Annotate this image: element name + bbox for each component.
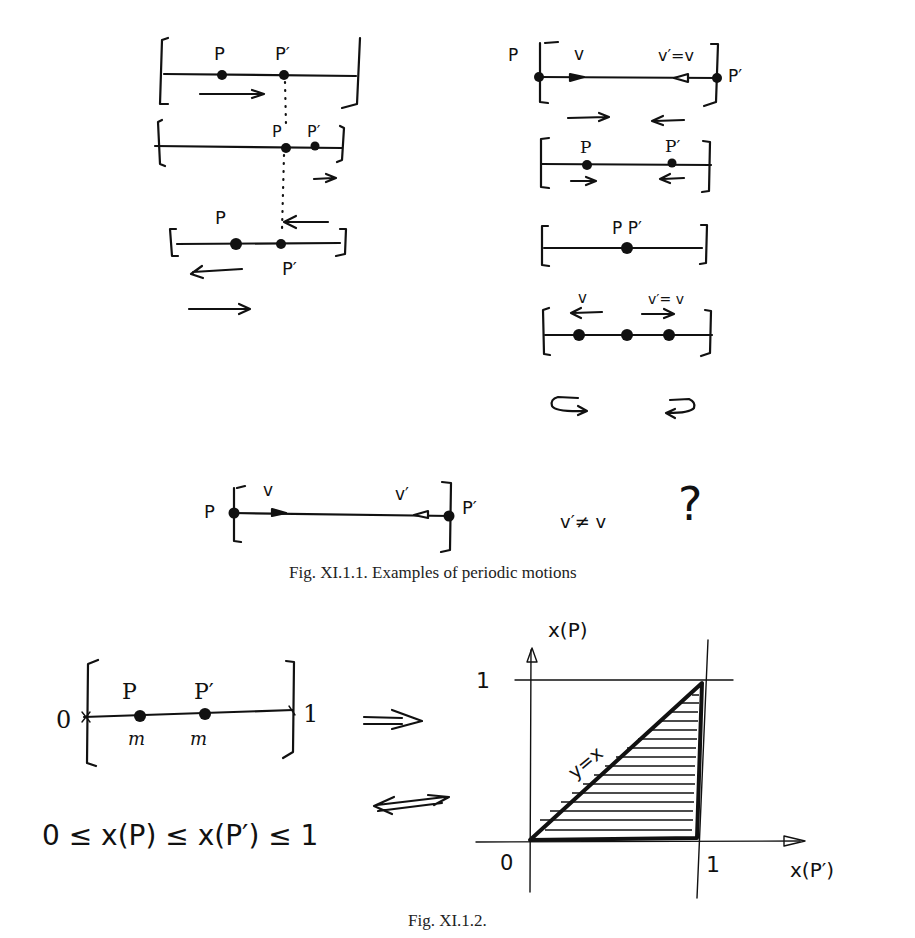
mass-label-2: m	[190, 728, 207, 749]
rotation-arrows	[552, 397, 695, 418]
x-axis-label: x(P′)	[790, 858, 834, 882]
right-diagram-2: P P′	[541, 136, 711, 192]
figure-1-caption: Fig. XI.1.1. Examples of periodic motion…	[289, 563, 577, 583]
label-p: P	[214, 43, 225, 64]
bottom-diagram: P v v′ P′ v′≠ v ?	[204, 477, 702, 552]
label-p: P	[272, 122, 282, 141]
condition-inequality: 0 ≤ x(P) ≤ x(P′) ≤ 1	[42, 819, 318, 852]
label-v-prime: v′	[395, 484, 409, 504]
right-diagram-4: v v′= v	[543, 289, 712, 356]
label-v-prime-equals-v: v′=v	[658, 46, 694, 65]
mass-label-1: m	[128, 728, 145, 749]
label-p: P	[122, 679, 137, 704]
figure-2-caption: Fig. XI.1.2.	[408, 911, 487, 931]
equivalence-arrow-icon	[374, 795, 449, 814]
label-p-p-prime: P P′	[612, 218, 642, 238]
label-v-prime-equals-v: v′= v	[648, 291, 684, 307]
label-p-prime: P′	[194, 679, 214, 704]
right-diagram-1: P v v′=v P′	[508, 42, 742, 125]
unit-segment-diagram: 0 1 P P′ m m	[56, 660, 318, 766]
implies-arrow-icon	[364, 710, 422, 729]
label-zero: 0	[56, 706, 71, 734]
x-tick-label-1: 1	[706, 852, 720, 877]
y-tick-label-1: 1	[476, 668, 490, 693]
left-diagram-1: P P′	[160, 38, 360, 125]
page: P P′ P P′ P P′ P v	[0, 0, 915, 938]
label-p-prime: P′	[665, 136, 680, 156]
y-axis-label: x(P)	[548, 618, 588, 642]
label-p: P	[215, 207, 226, 228]
label-p-prime: P′	[275, 43, 290, 64]
left-diagram-3: P P′	[170, 207, 346, 314]
label-v: v	[578, 289, 587, 307]
label-one: 1	[303, 700, 318, 728]
label-v: v	[574, 44, 584, 64]
label-p: P	[580, 137, 591, 157]
label-v: v	[263, 480, 273, 500]
figure-drawings: P P′ P P′ P P′ P v	[0, 0, 915, 938]
label-p-prime: P′	[282, 258, 297, 279]
label-p-prime: P′	[728, 66, 742, 86]
question-mark: ?	[678, 477, 702, 531]
left-diagram-2: P P′	[155, 120, 344, 230]
label-p-prime: P′	[307, 122, 321, 141]
origin-label: 0	[500, 851, 513, 875]
label-p: P	[508, 45, 518, 65]
label-p: P	[204, 501, 215, 522]
right-diagram-3: P P′	[542, 218, 707, 266]
region-plot: x(P) x(P′) 0 1 1 y=x	[476, 618, 834, 898]
inequality-v-prime-neq-v: v′≠ v	[560, 511, 607, 532]
label-p-prime: P′	[462, 497, 477, 518]
